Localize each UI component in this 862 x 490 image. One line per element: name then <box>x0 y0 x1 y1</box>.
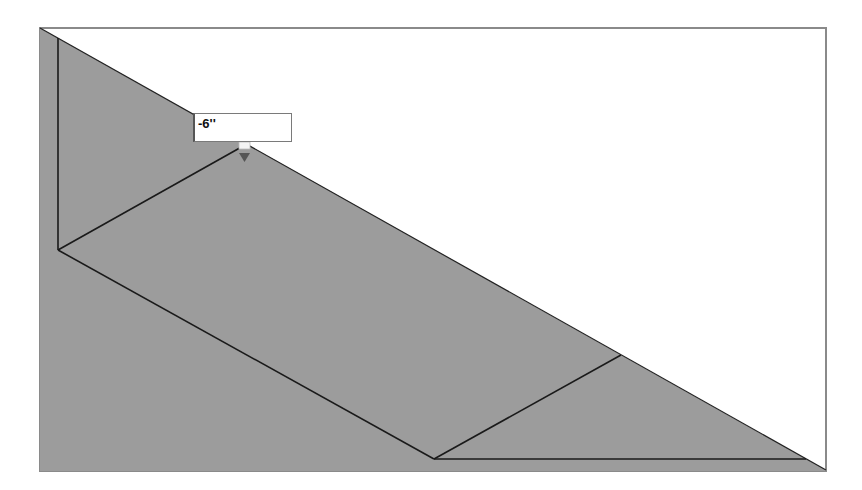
dimension-input[interactable]: -6'' <box>193 113 292 142</box>
drawing-viewport[interactable]: -6'' <box>0 0 862 490</box>
dimension-value: -6'' <box>198 116 216 131</box>
push-pull-tab[interactable] <box>239 142 250 149</box>
drawing-canvas[interactable] <box>0 0 862 490</box>
